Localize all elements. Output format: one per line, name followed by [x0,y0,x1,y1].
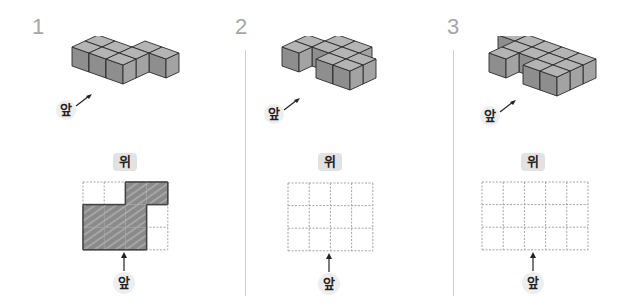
shaded-cell [125,227,146,250]
up-arrow-icon [119,252,129,272]
front-direction-label: 앞 [264,104,284,124]
top-view-grid[interactable] [82,181,169,251]
isometric-cube-structure [460,36,620,106]
problem-number: 3 [447,14,459,40]
shaded-cell [83,205,104,228]
shaded-cell [104,227,125,250]
front-direction-label: 앞 [480,106,500,126]
front-direction-arrow-icon [282,96,302,112]
problem-3: 3 앞 위 앞 [440,0,622,304]
top-view-label: 위 [521,153,545,171]
up-arrow-icon [528,252,538,272]
front-direction-arrow-icon [498,98,518,114]
front-direction-label: 앞 [56,100,76,120]
problem-number: 2 [235,14,247,40]
shaded-cell [125,182,146,205]
front-label-bottom: 앞 [113,272,135,294]
up-arrow-icon [324,253,334,273]
front-label-bottom: 앞 [318,273,340,295]
shaded-cell [104,205,125,228]
top-view-grid[interactable] [481,181,589,251]
shaded-cell [83,227,104,250]
top-view-label: 위 [318,153,342,171]
top-view-grid[interactable] [287,182,374,252]
shaded-cell [147,182,168,205]
front-label-bottom: 앞 [522,272,544,294]
problem-2: 2 앞 위 앞 [230,0,450,304]
top-view-label: 위 [113,153,137,171]
problem-1: 1 앞 위 앞 [0,0,230,304]
front-direction-arrow-icon [74,92,94,108]
shaded-cell [125,205,146,228]
problem-number: 1 [32,14,44,40]
